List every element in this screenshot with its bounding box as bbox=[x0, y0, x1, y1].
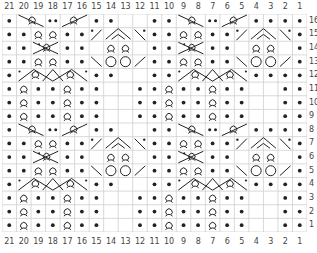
twisted-stitch-icon bbox=[230, 126, 237, 133]
column-label: 15 bbox=[89, 1, 104, 13]
row-label: 3 bbox=[309, 193, 314, 202]
column-label: 20 bbox=[17, 1, 32, 13]
twisted-stitch-icon bbox=[67, 72, 74, 79]
column-label: 7 bbox=[205, 1, 220, 13]
twisted-stitch-icon bbox=[180, 168, 187, 175]
column-label: 4 bbox=[249, 1, 264, 13]
twisted-stitch-icon bbox=[166, 222, 173, 229]
twisted-stitch-icon bbox=[230, 17, 237, 24]
column-label: 18 bbox=[46, 1, 61, 13]
column-label: 17 bbox=[60, 1, 75, 13]
twisted-stitch-icon bbox=[64, 100, 71, 107]
column-label: 4 bbox=[249, 236, 264, 248]
row-label: 9 bbox=[309, 111, 314, 120]
row-label: 4 bbox=[309, 179, 314, 188]
twisted-stitch-icon bbox=[70, 17, 77, 24]
twisted-stitch-icon bbox=[20, 86, 27, 93]
twisted-stitch-icon bbox=[35, 32, 42, 39]
column-label: 9 bbox=[176, 1, 191, 13]
column-label: 8 bbox=[191, 236, 206, 248]
twisted-stitch-icon bbox=[49, 59, 56, 66]
column-label: 16 bbox=[75, 236, 90, 248]
twisted-stitch-icon bbox=[195, 168, 202, 175]
column-label: 9 bbox=[176, 236, 191, 248]
column-label: 6 bbox=[220, 1, 235, 13]
row-label: 5 bbox=[309, 166, 314, 175]
row-label: 1 bbox=[309, 220, 314, 229]
column-label: 13 bbox=[118, 1, 133, 13]
twisted-stitch-icon bbox=[20, 209, 27, 216]
twisted-stitch-icon bbox=[209, 209, 216, 216]
column-label: 1 bbox=[293, 236, 308, 248]
twisted-stitch-icon bbox=[267, 154, 274, 161]
twisted-stitch-icon bbox=[64, 86, 71, 93]
column-label: 5 bbox=[235, 1, 250, 13]
twisted-stitch-icon bbox=[195, 141, 202, 148]
twisted-stitch-icon bbox=[29, 17, 36, 24]
twisted-stitch-icon bbox=[227, 72, 234, 79]
row-label: 7 bbox=[309, 138, 314, 147]
twisted-stitch-icon bbox=[20, 222, 27, 229]
column-label: 1 bbox=[293, 1, 308, 13]
twisted-stitch-icon bbox=[64, 222, 71, 229]
column-label: 10 bbox=[162, 1, 177, 13]
twisted-stitch-icon bbox=[188, 126, 195, 133]
twisted-stitch-icon bbox=[195, 59, 202, 66]
twisted-stitch-icon bbox=[253, 154, 260, 161]
column-label: 7 bbox=[205, 236, 220, 248]
column-label: 18 bbox=[46, 236, 61, 248]
twisted-stitch-icon bbox=[227, 181, 234, 188]
column-label: 15 bbox=[89, 236, 104, 248]
twisted-stitch-icon bbox=[209, 113, 216, 120]
twisted-stitch-icon bbox=[107, 154, 114, 161]
twisted-stitch-icon bbox=[192, 181, 199, 188]
twisted-stitch-icon bbox=[180, 32, 187, 39]
column-label: 21 bbox=[2, 236, 17, 248]
column-label: 21 bbox=[2, 1, 17, 13]
column-label: 19 bbox=[31, 236, 46, 248]
twisted-stitch-icon bbox=[35, 59, 42, 66]
twisted-stitch-icon bbox=[166, 86, 173, 93]
twisted-stitch-icon bbox=[20, 195, 27, 202]
twisted-stitch-icon bbox=[166, 195, 173, 202]
twisted-stitch-icon bbox=[209, 100, 216, 107]
column-label: 8 bbox=[191, 1, 206, 13]
row-label: 14 bbox=[309, 43, 317, 52]
twisted-stitch-icon bbox=[253, 45, 260, 52]
row-label: 15 bbox=[309, 29, 317, 38]
row-label: 10 bbox=[309, 98, 317, 107]
twisted-stitch-icon bbox=[32, 72, 39, 79]
column-label: 2 bbox=[278, 1, 293, 13]
column-label: 10 bbox=[162, 236, 177, 248]
row-label: 12 bbox=[309, 70, 317, 79]
column-label: 20 bbox=[17, 236, 32, 248]
twisted-stitch-icon bbox=[192, 72, 199, 79]
twisted-stitch-icon bbox=[180, 141, 187, 148]
twisted-stitch-icon bbox=[35, 141, 42, 148]
twisted-stitch-icon bbox=[64, 209, 71, 216]
twisted-stitch-icon bbox=[64, 195, 71, 202]
twisted-stitch-icon bbox=[70, 126, 77, 133]
twisted-stitch-icon bbox=[122, 154, 129, 161]
twisted-stitch-icon bbox=[195, 32, 202, 39]
column-label: 3 bbox=[264, 1, 279, 13]
column-label: 16 bbox=[75, 1, 90, 13]
row-label: 8 bbox=[309, 125, 314, 134]
column-label: 13 bbox=[118, 236, 133, 248]
column-label: 5 bbox=[235, 236, 250, 248]
twisted-stitch-icon bbox=[188, 17, 195, 24]
twisted-stitch-icon bbox=[180, 59, 187, 66]
column-label: 14 bbox=[104, 1, 119, 13]
column-labels-bottom: 212019181716151413121110987654321 bbox=[2, 236, 307, 248]
twisted-stitch-icon bbox=[32, 181, 39, 188]
column-label: 2 bbox=[278, 236, 293, 248]
twisted-stitch-icon bbox=[209, 222, 216, 229]
row-label: 2 bbox=[309, 207, 314, 216]
twisted-stitch-icon bbox=[35, 168, 42, 175]
column-label: 3 bbox=[264, 236, 279, 248]
twisted-stitch-icon bbox=[267, 45, 274, 52]
twisted-stitch-icon bbox=[64, 113, 71, 120]
knitting-chart-grid bbox=[2, 14, 307, 232]
column-label: 12 bbox=[133, 236, 148, 248]
row-label: 6 bbox=[309, 152, 314, 161]
